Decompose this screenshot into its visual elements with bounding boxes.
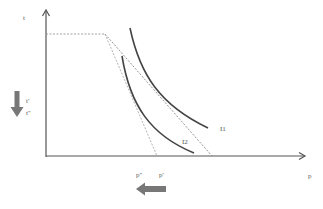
y-tick-t-double-prime: t'' xyxy=(26,110,30,117)
y-tick-t-prime: t' xyxy=(26,98,29,105)
arrow-left-icon xyxy=(136,183,166,196)
curve-label-i2: I2 xyxy=(182,139,188,146)
y-axis-label: t xyxy=(23,15,25,22)
x-tick-p-double-prime: p'' xyxy=(136,172,142,179)
budget-line-2-dashed xyxy=(105,34,157,156)
x-axis-label: p xyxy=(308,173,312,180)
arrow-down-icon xyxy=(11,91,24,117)
x-tick-p-prime: p' xyxy=(159,172,164,179)
curve-label-i1: I1 xyxy=(220,126,226,133)
budget-line-1-dashed xyxy=(105,34,212,156)
